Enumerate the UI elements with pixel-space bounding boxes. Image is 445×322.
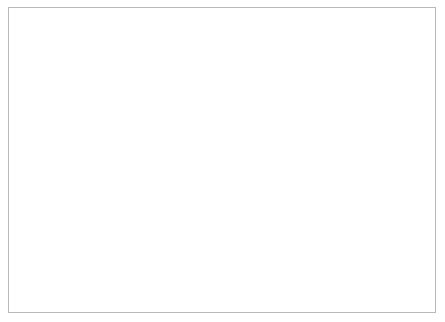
chart-root: 194019501960197019801990 0.00.20.40.60.8…	[0, 0, 445, 322]
figure-frame-border	[8, 7, 436, 313]
